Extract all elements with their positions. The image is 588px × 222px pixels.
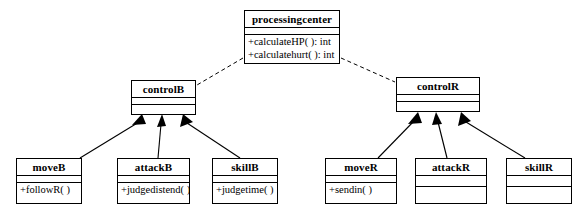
class-name-attackB: attackB xyxy=(118,159,189,176)
class-name-moveR: moveR xyxy=(326,159,396,176)
class-name-skillB: skillB xyxy=(213,159,277,176)
class-name-moveB: moveB xyxy=(17,159,81,176)
class-attributes-skillB xyxy=(213,176,277,183)
dependency-processingcenter-controlB xyxy=(197,58,243,85)
class-operations-skillB: +judgetime( ) xyxy=(213,183,277,196)
generalization-arrowhead-attackB xyxy=(157,114,166,127)
operation-row: +calculateHP( ): int xyxy=(248,35,339,48)
class-attributes-moveB xyxy=(17,176,81,183)
class-operations-processingcenter: +calculateHP( ): int +calculatehurt( ): … xyxy=(245,35,339,61)
class-box-controlB[interactable]: controlB xyxy=(131,80,196,115)
class-attributes-attackB xyxy=(118,176,189,183)
class-name-attackR: attackR xyxy=(416,159,486,176)
class-box-moveB[interactable]: moveB +followR( ) xyxy=(16,158,82,204)
generalization-moveR-controlR xyxy=(378,121,414,158)
class-attributes-controlB xyxy=(132,98,195,105)
class-name-skillR: skillR xyxy=(507,159,571,176)
generalization-attackR-controlR xyxy=(438,122,447,158)
generalization-arrowhead-attackR xyxy=(432,112,442,125)
class-operations-moveR: +sendin( ) xyxy=(326,183,396,196)
dependency-processingcenter-controlR xyxy=(341,58,395,82)
generalization-arrowhead-moveR xyxy=(408,112,422,124)
class-operations-moveB: +followR( ) xyxy=(17,183,81,196)
class-attributes-moveR xyxy=(326,176,396,183)
class-box-processingcenter[interactable]: processingcenter +calculateHP( ): int +c… xyxy=(244,10,340,64)
class-name-controlR: controlR xyxy=(397,78,479,95)
class-name-controlB: controlB xyxy=(132,81,195,98)
class-attributes-attackR xyxy=(416,176,486,187)
class-box-skillB[interactable]: skillB +judgetime( ) xyxy=(212,158,278,204)
class-box-moveR[interactable]: moveR +sendin( ) xyxy=(325,158,397,204)
operation-row: +judgedistend( ) xyxy=(121,183,189,196)
generalization-skillR-controlR xyxy=(466,122,525,158)
class-operations-controlR xyxy=(397,102,479,109)
class-box-attackB[interactable]: attackB +judgedistend( ) xyxy=(117,158,190,204)
class-box-attackR[interactable]: attackR xyxy=(415,158,487,204)
operation-row: +judgetime( ) xyxy=(216,183,277,196)
generalization-attackB-controlB xyxy=(158,124,161,158)
generalization-arrowhead-moveB xyxy=(132,114,146,125)
operation-row: +calculatehurt( ): int xyxy=(248,48,339,61)
class-operations-controlB xyxy=(132,105,195,112)
class-operations-attackB: +judgedistend( ) xyxy=(118,183,189,196)
class-attributes-controlR xyxy=(397,95,479,102)
class-name-processingcenter: processingcenter xyxy=(245,11,339,28)
generalization-skillB-controlB xyxy=(187,123,240,158)
class-attributes-skillR xyxy=(507,176,571,187)
class-attributes-processingcenter xyxy=(245,28,339,35)
generalization-moveB-controlB xyxy=(80,122,139,158)
operation-row: +sendin( ) xyxy=(329,183,396,196)
class-box-skillR[interactable]: skillR xyxy=(506,158,572,204)
class-box-controlR[interactable]: controlR xyxy=(396,77,480,112)
uml-class-diagram: processingcenter +calculateHP( ): int +c… xyxy=(0,0,588,222)
operation-row: +followR( ) xyxy=(20,183,81,196)
